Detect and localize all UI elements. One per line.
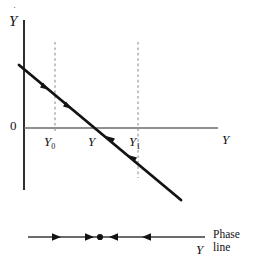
origin-label: 0 bbox=[10, 119, 17, 132]
horizontal-axis-label: Y bbox=[222, 133, 229, 146]
phase-line-axis-label: Y bbox=[196, 243, 203, 256]
phase-line-caption: Phase line bbox=[213, 228, 240, 254]
phase-arrow-right-1 bbox=[52, 233, 61, 241]
phase-diagram-canvas bbox=[0, 0, 267, 260]
vertical-axis-label: ˙ Y bbox=[9, 14, 17, 29]
tick-label-y-equilibrium-base: Y bbox=[88, 134, 95, 149]
tick-label-y0: Y0 bbox=[44, 135, 55, 151]
phase-arrow-left-1 bbox=[109, 233, 118, 241]
phase-arrow-left-2 bbox=[142, 233, 151, 241]
phase-line-caption-line2: line bbox=[213, 241, 240, 254]
phase-arrow-right-2 bbox=[85, 233, 94, 241]
tick-label-y-equilibrium: Y bbox=[88, 135, 95, 151]
tick-label-y0-subscript: 0 bbox=[51, 142, 55, 151]
phase-diagram-figure: ˙ Y 0 Y0 Y Y1 Y Y Phase line bbox=[0, 0, 267, 260]
dot-accent-icon: ˙ bbox=[13, 6, 16, 15]
phase-line-caption-line1: Phase bbox=[213, 228, 240, 241]
phase-equilibrium-dot bbox=[97, 234, 103, 240]
tick-label-y1: Y1 bbox=[129, 135, 140, 151]
tick-label-y1-subscript: 1 bbox=[136, 142, 140, 151]
vertical-axis-label-text: Y bbox=[9, 13, 17, 29]
